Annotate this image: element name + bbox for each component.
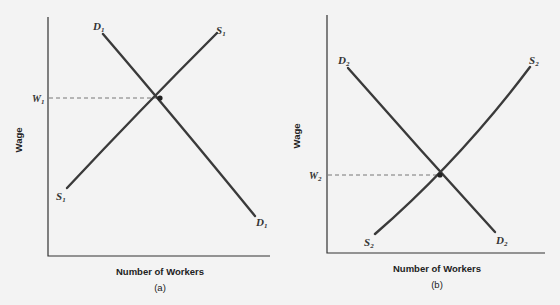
label-d1-top: D1 (92, 20, 104, 34)
label-s2-top: S2 (529, 54, 539, 68)
supply-curve-s2 (375, 67, 530, 234)
panel-caption-a: (a) (154, 282, 166, 293)
label-s2-bottom: S2 (364, 236, 374, 250)
label-d2-bottom: D2 (495, 234, 508, 248)
y-axis-title-b: Wage (291, 124, 302, 149)
label-w1: W1 (32, 93, 44, 106)
equilibrium-point-b (437, 172, 442, 177)
label-s1-bottom: S1 (56, 190, 66, 204)
label-d1-bottom: D1 (255, 216, 267, 230)
chart-panel-b: D2 D2 S2 S2 W2 Wage Number of Workers (b… (291, 15, 545, 290)
labor-market-charts: D1 D1 S1 S1 W1 Wage Number of Workers (a… (0, 0, 560, 305)
supply-curve-s1 (67, 33, 217, 188)
label-d2-top: D2 (337, 54, 350, 68)
demand-curve-d2 (348, 68, 495, 232)
x-axis-title-b: Number of Workers (393, 263, 481, 274)
panel-caption-b: (b) (431, 279, 443, 290)
label-s1-top: S1 (216, 24, 226, 38)
axes-a (48, 17, 270, 256)
label-w2: W2 (309, 170, 322, 183)
chart-panel-a: D1 D1 S1 S1 W1 Wage Number of Workers (a… (13, 17, 270, 293)
equilibrium-point-a (157, 95, 162, 100)
axes-b (327, 15, 545, 253)
y-axis-title-a: Wage (13, 128, 24, 153)
x-axis-title-a: Number of Workers (116, 266, 204, 277)
